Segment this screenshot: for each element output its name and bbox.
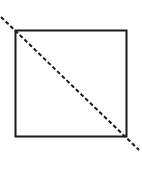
figure-svg xyxy=(0,0,142,181)
figure-canvas xyxy=(0,0,142,181)
